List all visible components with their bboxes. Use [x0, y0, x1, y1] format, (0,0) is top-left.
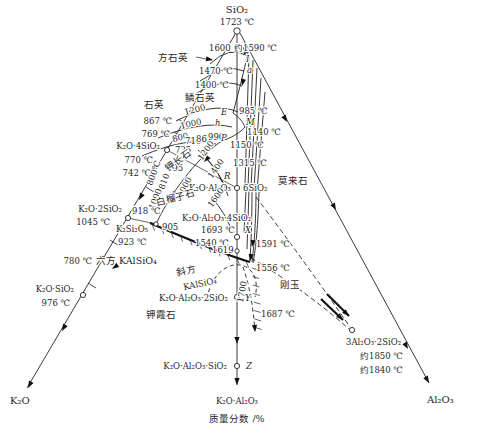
pt-Z: Z: [245, 361, 253, 371]
temp-approx-1590: 约1590 ℃: [234, 43, 277, 53]
path-arrowhead: [234, 378, 239, 385]
pt-X: X: [244, 225, 252, 235]
temp-1150: 1150 ℃: [230, 140, 264, 150]
mass-fraction-caption: 质量分数 /%: [209, 413, 264, 424]
k2o-vertex: K₂O: [10, 395, 30, 406]
path-arrowhead: [234, 337, 239, 344]
feldspar-formula-right: 6SiO₂: [243, 183, 267, 193]
hatch-tick: [252, 277, 259, 279]
corundum-region: 刚玉: [280, 279, 300, 290]
temp-923: 923 ℃: [118, 237, 146, 247]
temp-918: 918 ℃: [132, 206, 160, 216]
tridymite-region: 鳞石英: [185, 92, 215, 103]
feldspar-composition-point: [234, 185, 239, 190]
temp-1556: 1556 ℃: [256, 263, 290, 273]
k2o-al2o3-join: K₂O·Al₂O₃: [216, 396, 258, 406]
temp-1619: 1619: [212, 245, 234, 255]
pt-h: h: [215, 118, 220, 128]
temp-1140: 1140 ℃: [247, 127, 281, 137]
iso-810-rot: 810: [156, 172, 171, 191]
sio2-temp: 1723 ℃: [220, 17, 254, 27]
pt-P: P: [220, 133, 227, 143]
temp-905: 905: [162, 222, 178, 232]
path-arrowhead: [330, 203, 338, 212]
phase-diagram-canvas: SiO₂1723 ℃方石英1600约1590 ℃I1470 ℃a1400 ℃鳞石…: [0, 0, 478, 436]
kas-formula: K₂O·Al₂O₃·SiO₂: [163, 361, 227, 371]
pt-I: I: [245, 54, 250, 64]
sio2-apex-point: [234, 28, 240, 34]
temp-780: 780 ℃: [64, 256, 92, 266]
mullite-formula: 3Al₂O₃·2SiO₂: [346, 337, 401, 347]
k2o-2sio2-formula: K₂O·2SiO₂: [78, 204, 122, 214]
leucite-formula: K₂O·Al₂O₃·4SiO₂: [182, 213, 251, 223]
lower-line-4: [252, 191, 256, 262]
iso-1200-upper: 1200: [183, 102, 206, 117]
diagram-labels: SiO₂1723 ℃方石英1600约1590 ℃I1470 ℃a1400 ℃鳞石…: [10, 4, 454, 424]
hatch-tick: [254, 302, 260, 304]
mullite-composition-point: [349, 327, 354, 332]
iso-1400: 1400 ℃: [195, 80, 229, 90]
hex-kalsilite-label: 六方 KAlSiO₄: [96, 255, 157, 266]
cristobalite-region: 方石英: [158, 52, 188, 63]
temp-770: 770 ℃: [125, 155, 153, 165]
temp-approx-1850: 约1850 ℃: [360, 351, 403, 361]
hatch-tick: [255, 319, 262, 321]
kas-composition-point: [234, 363, 239, 368]
iso-1600-upper: 1600: [209, 43, 231, 53]
temp-1687: 1687 ℃: [261, 309, 295, 319]
pt-a: a: [247, 65, 252, 75]
iso-1000-upper: 1000: [179, 116, 202, 131]
k2o-sio2-formula: K₂O·SiO₂: [36, 284, 74, 294]
k2o-4sio2-formula: K₂O·4SiO₂: [116, 141, 160, 151]
iso-1470: 1470 ℃: [199, 66, 233, 76]
temp-1045: 1045 ℃: [76, 217, 110, 227]
leucite-composition-point: [234, 234, 239, 239]
phase-diagram-figure: SiO₂1723 ℃方石英1600约1590 ℃I1470 ℃a1400 ℃鳞石…: [0, 0, 478, 436]
k2o-2sio2-point: [125, 215, 130, 220]
temp-769: 769 ℃: [142, 129, 170, 139]
ortho-kalsilite-label: KAlSiO₄: [182, 275, 218, 292]
hatch-tick: [254, 311, 261, 313]
mullite-region: 莫来石: [278, 175, 308, 186]
kaliophilite-region: 钾霞石: [146, 309, 176, 320]
k2o-sio2-point: [80, 292, 85, 297]
temp-976: 976 ℃: [42, 298, 70, 308]
kaliophilite-formula: K₂O·Al₂O₃·2SiO₂: [159, 293, 228, 303]
hatch-tick: [253, 294, 260, 296]
temp-1315: 1315 ℃: [233, 158, 267, 168]
path-arrowhead: [252, 325, 258, 332]
path-arrowhead: [423, 376, 431, 385]
temp-1591: 1591 ℃: [256, 239, 290, 249]
pt-M: M: [245, 117, 255, 127]
k2si2o5-formula: K₂Si₂O₅: [116, 224, 149, 234]
temp-approx-1840: 约1840 ℃: [360, 365, 403, 375]
point-1619: [235, 249, 239, 253]
pt-E: E: [220, 107, 228, 117]
dashed-feldspar-mullite: [256, 197, 350, 327]
k2o-4sio2-point: [164, 147, 169, 152]
pt-R: R: [223, 171, 231, 181]
temp-1693: 1693 ℃: [201, 225, 235, 235]
al2o3-vertex: Al₂O₃: [426, 394, 454, 405]
quartz-region: 石英: [144, 99, 164, 110]
arc-1600: [210, 52, 248, 64]
eutectic-905-point: [154, 222, 158, 226]
temp-867-edge: 867 ℃: [144, 116, 172, 126]
ortho-label: 斜方: [175, 263, 197, 278]
sio2-formula: SiO₂: [226, 4, 248, 15]
temp-985: 985 ℃: [239, 106, 267, 116]
